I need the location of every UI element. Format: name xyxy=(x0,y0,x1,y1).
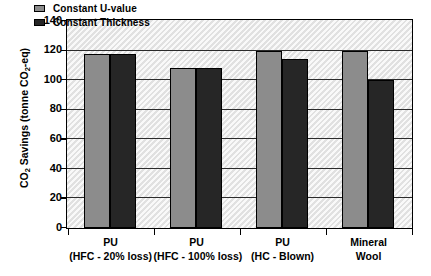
x-tick-0 xyxy=(68,229,69,235)
bar-constant-thickness-4 xyxy=(368,80,394,228)
chart-figure: CO2 Savings (tonne CO2-eq) 0204060801001… xyxy=(0,0,431,276)
x-tick-2 xyxy=(240,229,241,235)
y-tick-label-120: 120 xyxy=(44,44,62,55)
x-category-line1-1: PU xyxy=(68,236,154,250)
x-category-line2-4: Wool xyxy=(326,250,412,264)
y-axis-title-suffix: -eq) xyxy=(18,48,30,67)
x-category-label-1: PU(HFC - 20% loss) xyxy=(68,236,154,263)
chart-legend: Constant U-value Constant Thickness xyxy=(34,2,150,30)
bar-constant-thickness-1 xyxy=(110,54,136,229)
legend-swatch-icon-constant-u-value xyxy=(34,5,45,12)
bar-constant-thickness-2 xyxy=(196,68,222,228)
y-axis-title-sub-2: 2 xyxy=(23,67,32,71)
y-axis-title-middle: Savings (tonne CO xyxy=(18,71,30,168)
x-tick-1 xyxy=(154,229,155,235)
x-category-line1-2: PU xyxy=(154,236,240,250)
x-tick-4 xyxy=(412,229,413,235)
legend-label-constant-u-value: Constant U-value xyxy=(53,3,137,14)
bar-constant-u-value-2 xyxy=(170,68,196,228)
y-axis-title: CO2 Savings (tonne CO2-eq) xyxy=(18,8,30,228)
bar-constant-u-value-1 xyxy=(84,54,110,229)
bar-constant-thickness-3 xyxy=(282,59,308,228)
legend-item-constant-thickness: Constant Thickness xyxy=(34,16,150,29)
plot-area xyxy=(66,19,413,229)
x-category-label-2: PU(HFC - 100% loss) xyxy=(154,236,240,263)
y-axis-title-prefix: CO xyxy=(18,172,30,188)
bar-constant-u-value-3 xyxy=(256,51,282,228)
x-category-label-3: PU(HC - Blown) xyxy=(240,236,326,263)
x-category-label-4: MineralWool xyxy=(326,236,412,263)
x-category-line1-3: PU xyxy=(240,236,326,250)
x-tick-3 xyxy=(326,229,327,235)
y-axis-title-sub-1: 2 xyxy=(23,168,32,172)
bar-constant-u-value-4 xyxy=(342,51,368,228)
legend-label-constant-thickness: Constant Thickness xyxy=(53,17,150,28)
legend-item-constant-u-value: Constant U-value xyxy=(34,2,150,15)
x-category-line2-2: (HFC - 100% loss) xyxy=(154,250,240,264)
y-tick-label-100: 100 xyxy=(44,74,62,85)
x-category-line2-3: (HC - Blown) xyxy=(240,250,326,264)
x-category-line2-1: (HFC - 20% loss) xyxy=(68,250,154,264)
legend-swatch-icon-constant-thickness xyxy=(34,19,45,26)
x-category-line1-4: Mineral xyxy=(326,236,412,250)
